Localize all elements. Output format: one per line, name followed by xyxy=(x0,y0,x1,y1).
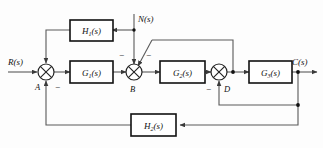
tap-point-outer-loop xyxy=(296,103,300,107)
signal-label-disturbance: N(s) xyxy=(137,14,154,24)
junction-a-sign: − xyxy=(55,82,60,92)
summing-junction-b[interactable] xyxy=(126,64,142,80)
block-g1-label: G1(s) xyxy=(82,68,101,79)
junction-b-label: B xyxy=(130,84,135,94)
signal-label-output: C(s) xyxy=(292,57,308,67)
block-h2-label: H2(s) xyxy=(143,121,163,132)
junction-b-sign-vertical: − xyxy=(119,50,124,60)
block-g3-label: G3(s) xyxy=(261,68,280,79)
block-g3[interactable]: G3(s) xyxy=(249,61,292,83)
block-diagram-canvas: H1(s) G1(s) G2(s) G3(s) xyxy=(0,0,323,148)
junction-b-sign-diagonal: − xyxy=(146,50,151,60)
block-h1-label: H1(s) xyxy=(81,26,101,37)
tap-point-inner-loop xyxy=(231,70,235,74)
block-h1[interactable]: H1(s) xyxy=(70,20,113,41)
tap-point-disturbance xyxy=(132,28,135,31)
wire-output-to-h2 xyxy=(180,105,298,125)
summing-junction-d[interactable] xyxy=(211,64,227,80)
block-h2[interactable]: H2(s) xyxy=(131,114,176,136)
block-g1[interactable]: G1(s) xyxy=(70,61,113,83)
block-diagram-svg: H1(s) G1(s) G2(s) G3(s) xyxy=(0,0,323,148)
junction-d-sign: − xyxy=(206,84,211,94)
block-g2[interactable]: G2(s) xyxy=(160,61,205,83)
junction-d-label: D xyxy=(223,84,231,94)
summing-junction-a[interactable] xyxy=(38,64,54,80)
block-g2-label: G2(s) xyxy=(173,68,192,79)
junction-a-label: A xyxy=(34,82,41,92)
tap-point-output xyxy=(296,70,300,74)
wire-h1-to-junction-a xyxy=(46,30,70,63)
signal-label-input: R(s) xyxy=(7,57,23,67)
